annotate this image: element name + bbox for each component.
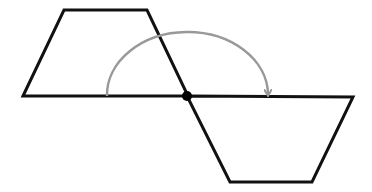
center-of-rotation-point <box>182 91 192 101</box>
rotation-arc-arrow <box>107 32 268 96</box>
rotated-trapezoid <box>187 96 353 182</box>
original-trapezoid <box>23 10 188 96</box>
rotation-diagram <box>0 0 372 192</box>
diagram-svg <box>0 0 372 192</box>
